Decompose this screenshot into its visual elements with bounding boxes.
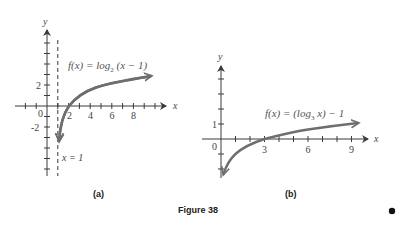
y-tick-label-1: 1 bbox=[212, 119, 217, 130]
origin-label-a: 0 bbox=[38, 108, 43, 119]
y-tick-label-2: 2 bbox=[36, 80, 41, 91]
panel-label-b: (b) bbox=[285, 189, 297, 199]
formula-b-prefix: f(x) = (log bbox=[265, 107, 311, 120]
formula-b-suffix: x) − 1 bbox=[314, 107, 344, 120]
figure-canvas: y x 0 2 4 6 8 2 -2 x = 1 f(x) = log2 (x … bbox=[0, 0, 398, 227]
panel-label-a: (a) bbox=[93, 189, 104, 199]
formula-a-prefix: f(x) = log bbox=[68, 59, 111, 72]
curve-b-lower-arrow bbox=[224, 139, 265, 174]
formula-a-suffix: (x − 1) bbox=[114, 59, 148, 72]
asymptote-label: x = 1 bbox=[61, 152, 83, 163]
x-axis-label-a: x bbox=[172, 100, 178, 111]
y-axis-label-a: y bbox=[42, 16, 48, 27]
curve-b-upper-arrow bbox=[265, 123, 359, 139]
y-axis-label-b: y bbox=[217, 51, 223, 62]
figure-caption: Figure 38 bbox=[178, 205, 218, 215]
graph-b: y x 0 3 6 9 1 f(x) = (log3 x) − 1 (b) bbox=[202, 51, 379, 199]
graph-a: y x 0 2 4 6 8 2 -2 x = 1 f(x) = log2 (x … bbox=[15, 16, 178, 199]
x-tick-label-3: 3 bbox=[262, 144, 267, 155]
x-tick-label-6: 6 bbox=[110, 110, 115, 121]
x-axis-label-b: x bbox=[373, 133, 379, 144]
formula-b: f(x) = (log3 x) − 1 bbox=[265, 107, 344, 122]
page-marker-dot bbox=[389, 208, 395, 214]
y-tick-label-neg2: -2 bbox=[31, 122, 39, 133]
x-tick-label-8: 8 bbox=[131, 110, 136, 121]
curve-a-upper-arrow bbox=[69, 76, 151, 106]
x-tick-label-4: 4 bbox=[88, 110, 93, 121]
x-tick-label-2: 2 bbox=[67, 110, 72, 121]
origin-label-b: 0 bbox=[212, 141, 217, 152]
x-tick-label-6b: 6 bbox=[306, 144, 311, 155]
formula-a: f(x) = log2 (x − 1) bbox=[68, 59, 147, 74]
x-tick-label-9: 9 bbox=[349, 144, 354, 155]
